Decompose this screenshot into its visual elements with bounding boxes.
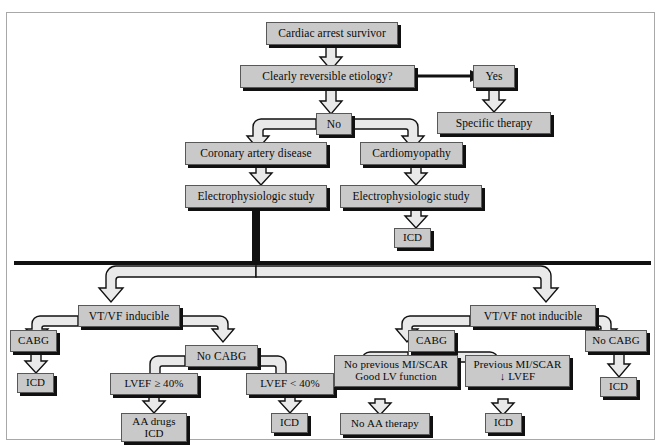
node-no-cabg-left[interactable]: No CABG (185, 345, 258, 367)
node-icd-lvef-lt-40[interactable]: ICD (271, 413, 308, 433)
node-vtvf-inducible[interactable]: VT/VF inducible (78, 305, 180, 327)
node-icd-previous-mi[interactable]: ICD (485, 413, 522, 433)
flowchart-figure: .blk{fill:#e9e9e9;stroke:#111;stroke-wid… (0, 0, 665, 447)
node-vtvf-not-inducible[interactable]: VT/VF not inducible (470, 305, 596, 327)
node-coronary-artery-disease[interactable]: Coronary artery disease (185, 142, 327, 165)
node-electrophysiologic-study-right[interactable]: Electrophysiologic study (340, 185, 482, 208)
node-cabg-left[interactable]: CABG (10, 330, 57, 352)
node-no[interactable]: No (316, 113, 352, 135)
node-clearly-reversible-etiology[interactable]: Clearly reversible etiology? (240, 65, 415, 88)
node-cardiomyopathy[interactable]: Cardiomyopathy (360, 142, 463, 165)
node-yes[interactable]: Yes (473, 65, 515, 88)
node-icd-after-cabg-left[interactable]: ICD (17, 373, 54, 393)
node-no-previous-mi-scar[interactable]: No previous MI/SCAR Good LV function (334, 355, 458, 387)
node-icd-no-cabg-right[interactable]: ICD (600, 377, 637, 397)
node-cabg-right[interactable]: CABG (408, 330, 455, 352)
node-icd-cardiomyopathy[interactable]: ICD (394, 228, 431, 248)
node-previous-mi-scar[interactable]: Previous MI/SCAR ↓ LVEF (465, 355, 570, 387)
node-specific-therapy[interactable]: Specific therapy (437, 112, 551, 134)
node-no-aa-therapy[interactable]: No AA therapy (340, 413, 430, 435)
node-aa-drugs-icd[interactable]: AA drugs ICD (121, 413, 187, 442)
node-electrophysiologic-study-left[interactable]: Electrophysiologic study (185, 185, 327, 208)
node-lvef-lt-40[interactable]: LVEF < 40% (246, 373, 334, 395)
node-lvef-ge-40[interactable]: LVEF ≥ 40% (110, 373, 198, 395)
node-no-cabg-right[interactable]: No CABG (585, 330, 647, 352)
node-cardiac-arrest-survivor[interactable]: Cardiac arrest survivor (266, 22, 398, 45)
